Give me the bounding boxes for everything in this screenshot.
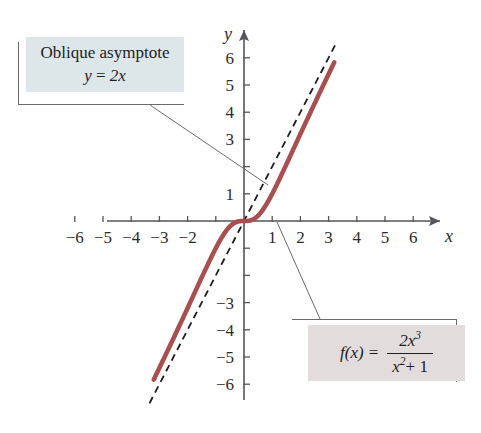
asymptote-callout-title: Oblique asymptote [26,43,184,64]
asymptote-leader-line [150,105,268,185]
y-tick-label: −5 [216,348,234,367]
function-numerator: 2x3 [387,329,433,353]
asymptote-callout: Oblique asymptote y = 2x [26,37,184,92]
denominator-tail: + 1 [406,356,428,375]
asymptote-callout-equation: y = 2x [26,66,184,87]
x-tick-label: 1 [268,228,277,247]
y-tick-label: −3 [216,294,234,313]
asymptote-eq-operator: = [96,66,106,85]
numerator-base: 2x [399,331,415,350]
figure-container: −6−5−4−3−2123456 −6−5−4−313456 x y Obliq… [0,0,481,433]
x-tick-label: −4 [122,228,141,247]
numerator-exponent: 3 [415,329,421,342]
y-tick-label: −4 [216,321,235,340]
x-axis-label: x [444,226,453,246]
function-lhs: f(x) [340,343,364,364]
function-denominator: x2+ 1 [387,354,433,377]
x-tick-label: −6 [66,228,84,247]
x-tick-label: −3 [150,228,168,247]
x-tick-label: −2 [179,228,197,247]
y-tick-label: 3 [226,130,235,149]
y-axis-label: y [222,24,232,44]
function-fraction: 2x3 x2+ 1 [387,329,433,377]
y-tick-label: 4 [226,103,235,122]
x-tick-label: 6 [409,228,418,247]
y-tick-label: −6 [216,375,234,394]
denominator-base: x [392,356,400,375]
y-tick-label: 5 [226,76,235,95]
function-equals: = [369,343,379,364]
y-tick-label: 6 [226,49,235,68]
x-tick-label: 4 [353,228,362,247]
x-tick-label: −5 [94,228,112,247]
x-tick-label: 3 [324,228,333,247]
function-callout: f(x) = 2x3 x2+ 1 [308,325,465,381]
x-tick-label: 5 [381,228,390,247]
asymptote-eq-lhs: y [84,66,92,85]
x-tick-label: 2 [296,228,305,247]
y-tick-label: 1 [226,185,235,204]
function-formula: f(x) = 2x3 x2+ 1 [308,325,465,381]
x-axis-tick-labels: −6−5−4−3−2123456 [66,228,418,247]
asymptote-eq-rhs: 2x [110,66,126,85]
